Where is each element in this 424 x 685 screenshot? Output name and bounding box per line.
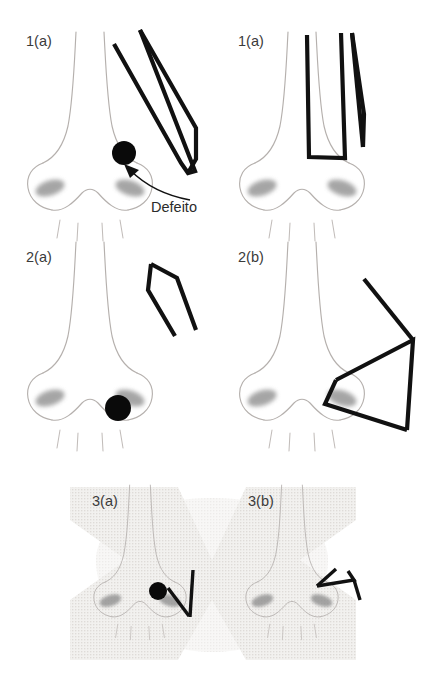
panel-1a-nose (28, 32, 153, 241)
panel-2a: 2(a) (26, 242, 196, 451)
defect-marker (112, 141, 136, 165)
defect-marker (149, 582, 167, 600)
defect-callout-label: Defeito (151, 199, 197, 215)
bottom-row-texture (70, 487, 356, 660)
panel-2b-label: 2(b) (238, 249, 264, 265)
panel-1a: 1(a) Defeito (26, 30, 197, 241)
panel-2b: 2(b) (238, 242, 413, 451)
figure-root: 1(a) Defeito 1(a) (0, 0, 424, 685)
panel-2a-label: 2(a) (26, 249, 52, 265)
panel-2a-nose (28, 242, 153, 451)
panel-2a-instrument (148, 264, 196, 336)
panel-1b-label: 1(a) (238, 33, 264, 49)
panel-1a-label: 1(a) (26, 33, 52, 49)
nasal-flap-figure: 1(a) Defeito 1(a) (0, 0, 424, 685)
panel-1b-instrument (307, 33, 364, 158)
panel-1b: 1(a) (238, 32, 364, 241)
panel-3b-label: 3(b) (248, 493, 274, 509)
panel-2b-instrument (325, 279, 413, 430)
panel-2b-nose (240, 242, 365, 451)
panel-3a-label: 3(a) (92, 493, 118, 509)
defect-marker (105, 395, 131, 421)
